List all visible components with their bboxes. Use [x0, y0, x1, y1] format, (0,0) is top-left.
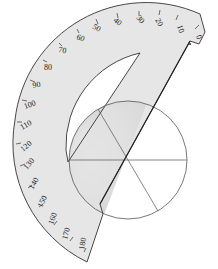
scale-label-80: 80: [44, 63, 52, 72]
center-dot: [189, 43, 191, 45]
scale-label-90: 90: [32, 80, 41, 90]
diagram-canvas: 0 10 20 30 40 50 60 70 80 90 100 110 120…: [0, 0, 218, 269]
protractor-diagram: 0 10 20 30 40 50 60 70 80 90 100 110 120…: [0, 0, 218, 269]
scale-label-70: 70: [58, 45, 67, 55]
